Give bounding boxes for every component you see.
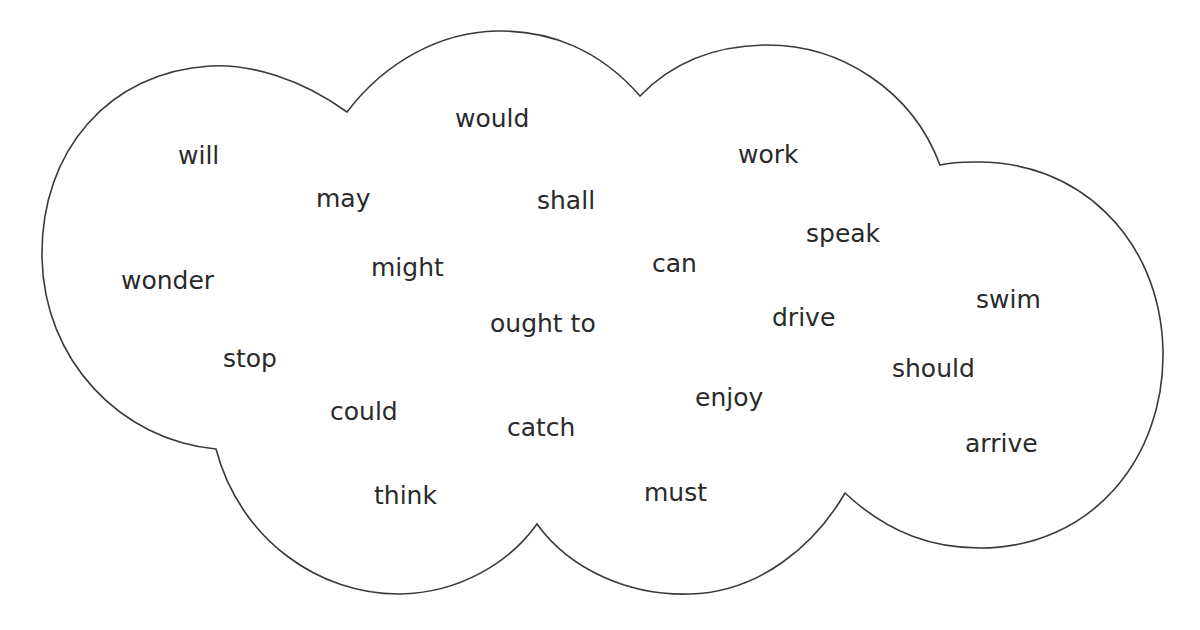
word-think: think [374, 483, 437, 508]
word-wonder: wonder [121, 268, 214, 293]
word-could: could [330, 399, 398, 424]
word-must: must [644, 480, 707, 505]
word-ought-to: ought to [490, 311, 596, 336]
word-arrive: arrive [965, 431, 1038, 456]
word-enjoy: enjoy [695, 385, 763, 410]
word-speak: speak [806, 221, 880, 246]
word-should: should [892, 356, 975, 381]
word-work: work [738, 142, 799, 167]
word-will: will [178, 143, 219, 168]
word-shall: shall [537, 188, 595, 213]
word-would: would [455, 106, 529, 131]
word-may: may [316, 186, 370, 211]
word-might: might [371, 255, 444, 280]
word-catch: catch [507, 415, 575, 440]
word-drive: drive [772, 305, 835, 330]
word-can: can [652, 251, 697, 276]
cloud-outline [0, 0, 1200, 630]
word-stop: stop [223, 346, 277, 371]
word-swim: swim [976, 287, 1041, 312]
